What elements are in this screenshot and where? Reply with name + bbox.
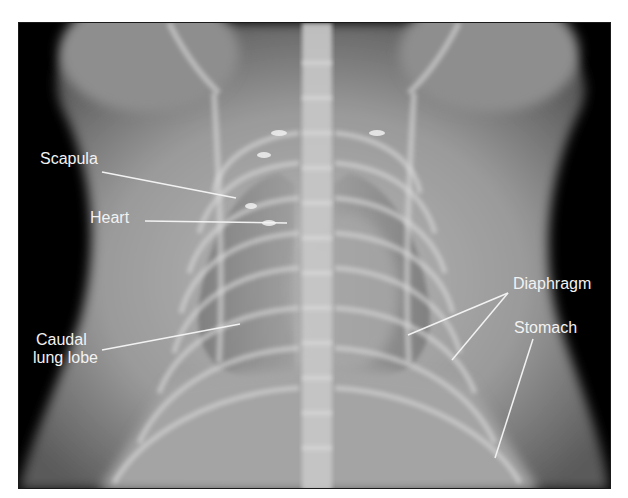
label-scapula: Scapula xyxy=(40,150,98,168)
label-caudal-lung-lobe-line1: Caudal xyxy=(36,331,87,349)
thoracic-radiograph-image xyxy=(19,23,611,489)
label-stomach: Stomach xyxy=(514,319,577,337)
label-diaphragm: Diaphragm xyxy=(513,275,591,293)
label-heart: Heart xyxy=(90,209,129,227)
label-caudal-lung-lobe-line2: lung lobe xyxy=(33,349,98,367)
radiograph-frame xyxy=(18,22,611,489)
